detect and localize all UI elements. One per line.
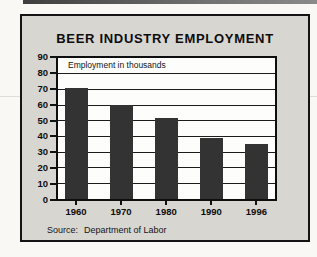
plot-area: Employment in thousands <box>56 56 277 201</box>
x-tick-label: 1970 <box>101 206 141 217</box>
source-value: Department of Labor <box>84 225 167 235</box>
y-tick-label: 40 <box>22 130 48 142</box>
bar-1960 <box>65 88 88 199</box>
y-tick-label: 30 <box>22 146 48 158</box>
x-axis-tick <box>255 201 257 205</box>
x-tick-label: 1960 <box>56 206 96 217</box>
page: BEER INDUSTRY EMPLOYMENT 010203040506070… <box>0 0 317 257</box>
top-divider-bar <box>23 0 317 4</box>
grid-line <box>58 89 275 90</box>
bar-1980 <box>155 118 178 199</box>
x-axis-tick <box>75 201 77 205</box>
y-tick-label: 90 <box>22 51 48 63</box>
bar-1990 <box>200 138 223 199</box>
bar-1970 <box>110 105 133 199</box>
chart-title: BEER INDUSTRY EMPLOYMENT <box>22 31 308 46</box>
plot-annotation: Employment in thousands <box>68 60 166 70</box>
y-tick-label: 80 <box>22 67 48 79</box>
x-tick-label: 1980 <box>146 206 186 217</box>
y-tick-label: 50 <box>22 115 48 127</box>
x-axis-tick <box>120 201 122 205</box>
source-note: Source:Department of Labor <box>47 225 167 235</box>
y-tick-label: 20 <box>22 162 48 174</box>
y-tick-label: 60 <box>22 99 48 111</box>
x-tick-label: 1996 <box>236 206 276 217</box>
grid-line <box>58 73 275 74</box>
y-tick-label: 10 <box>22 178 48 190</box>
x-axis-tick <box>165 201 167 205</box>
y-tick-label: 70 <box>22 83 48 95</box>
x-axis-tick <box>210 201 212 205</box>
source-label: Source: <box>47 225 78 235</box>
grid-line <box>58 105 275 106</box>
y-tick-label: 0 <box>22 194 48 206</box>
chart-frame: BEER INDUSTRY EMPLOYMENT 010203040506070… <box>20 14 310 242</box>
bar-1996 <box>245 144 268 199</box>
x-tick-label: 1990 <box>191 206 231 217</box>
